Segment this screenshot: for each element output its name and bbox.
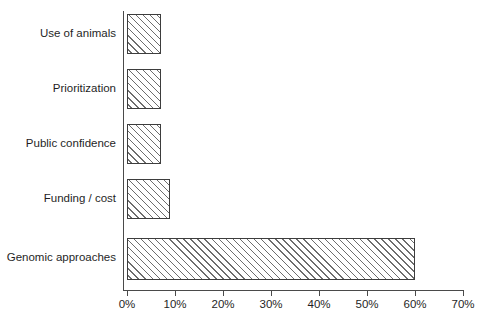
x-tick-2 [223, 290, 224, 296]
x-tick-label-4: 40% [295, 297, 343, 311]
x-tick-0 [127, 290, 128, 296]
x-tick-label-7: 70% [439, 297, 480, 311]
bar-use-of-animals [127, 14, 161, 54]
x-tick-6 [415, 290, 416, 296]
bar-public-confidence [127, 124, 161, 164]
chart-title [0, 0, 480, 2]
x-tick-4 [319, 290, 320, 296]
x-tick-label-1: 10% [151, 297, 199, 311]
x-tick-label-3: 30% [247, 297, 295, 311]
bar-chart: Use of animals Prioritization Public con… [0, 0, 480, 318]
x-tick-7 [463, 290, 464, 296]
y-axis-line [123, 11, 124, 291]
x-tick-1 [175, 290, 176, 296]
x-tick-label-0: 0% [103, 297, 151, 311]
bar-genomic-approaches [127, 238, 415, 280]
y-axis-label-4: Genomic approaches [0, 250, 116, 264]
y-axis-label-3: Funding / cost [0, 191, 116, 205]
y-axis-label-2: Public confidence [0, 136, 116, 150]
y-axis-label-0: Use of animals [0, 26, 116, 40]
x-tick-5 [367, 290, 368, 296]
y-axis-label-1: Prioritization [0, 81, 116, 95]
x-tick-3 [271, 290, 272, 296]
x-tick-label-2: 20% [199, 297, 247, 311]
bar-funding-cost [127, 179, 170, 219]
x-tick-label-5: 50% [343, 297, 391, 311]
bar-prioritization [127, 69, 161, 109]
x-tick-label-6: 60% [391, 297, 439, 311]
